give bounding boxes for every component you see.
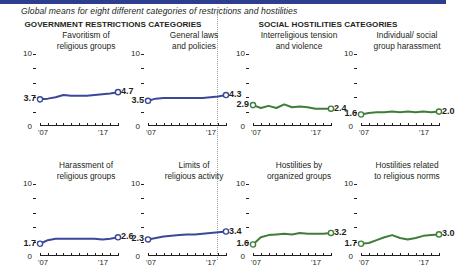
start-point-marker xyxy=(250,103,255,108)
end-point-marker xyxy=(436,232,441,237)
sparkline-panel-general-laws-and-policies: General lawsand policies100'07'173.54.3 xyxy=(144,30,244,136)
x-axis-label-end: '17 xyxy=(98,128,108,137)
plot-area: 100'07'173.74.7 xyxy=(36,54,136,126)
x-axis-label-start: '07 xyxy=(146,258,156,267)
x-axis-label-end: '17 xyxy=(98,258,108,267)
panel-title: Individual/ socialgroup harassment xyxy=(349,30,459,51)
panel-title: Hostilities byorganized groups xyxy=(241,160,357,181)
x-axis-label-end: '17 xyxy=(311,128,321,137)
x-axis-label-end: '17 xyxy=(419,258,429,267)
y-axis-label-min: 0 xyxy=(337,252,353,261)
end-value-label: 3.4 xyxy=(229,226,242,236)
start-value-label: 1.7 xyxy=(331,238,357,248)
y-axis-label-max: 10 xyxy=(229,179,245,188)
panel-title: Harassment ofreligious groups xyxy=(28,160,144,181)
start-value-label: 1.7 xyxy=(10,238,36,248)
start-point-marker xyxy=(37,97,42,102)
top-accent-bar xyxy=(0,0,446,4)
start-point-marker xyxy=(145,237,150,242)
y-axis-label-max: 10 xyxy=(124,49,140,58)
sparkline-path xyxy=(148,95,226,101)
y-axis-label-min: 0 xyxy=(337,122,353,131)
y-axis-label-min: 0 xyxy=(229,252,245,261)
panel-title-line1: General laws xyxy=(136,30,252,41)
start-point-marker xyxy=(250,242,255,247)
start-value-label: 3.5 xyxy=(118,95,144,105)
end-point-marker xyxy=(223,92,228,97)
end-point-marker xyxy=(436,109,441,114)
y-axis-label-min: 0 xyxy=(229,122,245,131)
start-value-label: 1.6 xyxy=(223,238,249,248)
y-axis-label-max: 10 xyxy=(16,49,32,58)
start-value-label: 3.7 xyxy=(10,93,36,103)
sparkline xyxy=(357,184,457,256)
y-axis-label-min: 0 xyxy=(124,252,140,261)
section-header-social: SOCIAL HOSTILITIES CATEGORIES xyxy=(228,20,428,29)
panel-title-line1: Limits of xyxy=(136,160,252,171)
panel-title-line1: Hostilities by xyxy=(241,160,357,171)
sparkline-path xyxy=(361,112,439,115)
panel-title-line1: Interreligious tension xyxy=(241,30,357,41)
sparkline xyxy=(36,184,136,256)
sparkline-panel-individual-social-group-harassment: Individual/ socialgroup harassment100'07… xyxy=(357,30,457,136)
x-axis-label-start: '07 xyxy=(38,128,48,137)
x-axis-label-start: '07 xyxy=(146,128,156,137)
end-point-marker xyxy=(223,229,228,234)
x-axis-label-end: '17 xyxy=(419,128,429,137)
panel-title: General lawsand policies xyxy=(136,30,252,51)
end-value-label: 3.0 xyxy=(442,228,455,238)
y-axis-label-min: 0 xyxy=(16,252,32,261)
sparkline-path xyxy=(361,234,439,243)
sparkline-panel-hostilities-by-organized-groups: Hostilities byorganized groups100'07'171… xyxy=(249,160,349,266)
end-value-label: 2.0 xyxy=(442,106,455,116)
sparkline-path xyxy=(253,104,331,108)
x-axis-label-start: '07 xyxy=(359,258,369,267)
panel-title-line1: Hostilities related xyxy=(349,160,459,171)
sparkline-panel-harassment-of-religious-groups: Harassment ofreligious groups100'07'171.… xyxy=(36,160,136,266)
panel-title-line2: to religious norms xyxy=(349,171,459,182)
sparkline-path xyxy=(40,237,118,243)
y-axis-label-max: 10 xyxy=(229,49,245,58)
end-value-label: 3.2 xyxy=(334,227,347,237)
start-point-marker xyxy=(37,241,42,246)
panel-title-line2: group harassment xyxy=(349,41,459,52)
panel-title-line1: Individual/ social xyxy=(349,30,459,41)
y-axis-label-min: 0 xyxy=(16,122,32,131)
panel-title: Favoritism ofreligious groups xyxy=(28,30,144,51)
sparkline-path xyxy=(253,233,331,245)
x-axis-label-start: '07 xyxy=(251,128,261,137)
y-axis-label-max: 10 xyxy=(337,49,353,58)
panel-title: Interreligious tensionand violence xyxy=(241,30,357,51)
plot-area: 100'07'171.72.6 xyxy=(36,184,136,256)
start-point-marker xyxy=(358,241,363,246)
start-point-marker xyxy=(358,112,363,117)
x-axis-label-start: '07 xyxy=(359,128,369,137)
section-header-government: GOVERNMENT RESTRICTIONS CATEGORIES xyxy=(18,20,208,29)
y-axis-label-min: 0 xyxy=(124,122,140,131)
panel-title: Limits ofreligious activity xyxy=(136,160,252,181)
y-axis-label-max: 10 xyxy=(124,179,140,188)
sparkline-panel-hostilities-related-to-religious-norms: Hostilities relatedto religious norms100… xyxy=(357,160,457,266)
sparkline-panel-interreligious-tension-and-violence: Interreligious tensionand violence100'07… xyxy=(249,30,349,136)
x-axis-label-start: '07 xyxy=(251,258,261,267)
start-point-marker xyxy=(145,98,150,103)
panel-title: Hostilities relatedto religious norms xyxy=(349,160,459,181)
end-value-label: 4.3 xyxy=(229,89,242,99)
chart-subtitle: Global means for eight different categor… xyxy=(21,6,431,17)
x-axis-label-start: '07 xyxy=(38,258,48,267)
y-axis-label-max: 10 xyxy=(337,179,353,188)
plot-area: 100'07'171.73.0 xyxy=(357,184,457,256)
start-value-label: 2.9 xyxy=(223,99,249,109)
y-axis-label-max: 10 xyxy=(16,179,32,188)
sparkline-panel-favoritism-of-religious-groups: Favoritism ofreligious groups100'07'173.… xyxy=(36,30,136,136)
sparkline-path xyxy=(40,92,118,99)
x-axis-label-end: '17 xyxy=(206,258,216,267)
panel-title-line1: Harassment of xyxy=(28,160,144,171)
x-axis-label-end: '17 xyxy=(206,128,216,137)
start-value-label: 1.6 xyxy=(331,108,357,118)
plot-area: 100'07'173.54.3 xyxy=(144,54,244,126)
sparkline-panel-limits-of-religious-activity: Limits ofreligious activity100'07'172.33… xyxy=(144,160,244,266)
plot-area: 100'07'171.62.0 xyxy=(357,54,457,126)
start-value-label: 2.3 xyxy=(118,233,144,243)
sparkline-path xyxy=(148,232,226,240)
